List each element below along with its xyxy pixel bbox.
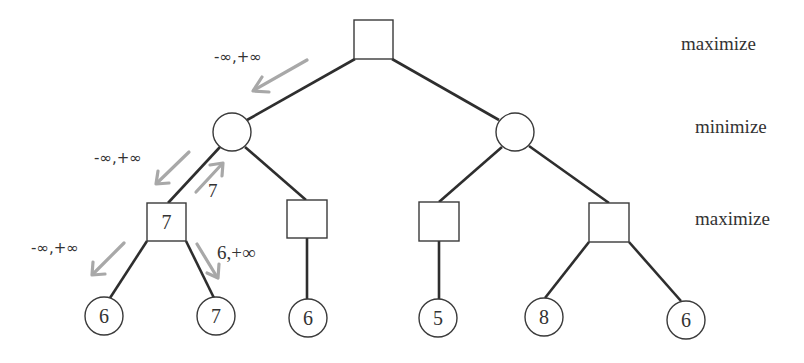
bound-label-min-left-max-1: -∞,+∞: [94, 149, 142, 167]
arrow-min-left-to-max-1-icon: [156, 152, 189, 184]
bound-label-max-1-leaf-1: -∞,+∞: [31, 239, 79, 257]
leaf-node-1-value: 6: [99, 305, 109, 327]
level-labels: maximize minimize maximize: [681, 33, 770, 229]
level-label-1: minimize: [695, 116, 767, 137]
leaf-node-5-value: 8: [539, 306, 549, 328]
bound-label-root-min-left: -∞,+∞: [214, 48, 262, 66]
tree-nodes: 7 6 7 6 5 8 6: [85, 20, 705, 339]
bound-label-max-1-leaf-2: 6,+∞: [217, 242, 256, 263]
leaf-node-6-value: 6: [681, 309, 691, 331]
minimax-tree-diagram: 7 6 7 6 5 8 6: [0, 0, 804, 363]
tree-edges: [110, 59, 681, 301]
bound-label-max-1-to-min-left: 7: [208, 180, 218, 201]
arrow-max-1-to-leaf-1-icon: [92, 243, 124, 275]
min-node-left: [213, 113, 251, 151]
level-label-2: maximize: [695, 208, 770, 229]
level-label-0: maximize: [681, 33, 756, 54]
edge-min-right-max-4: [529, 146, 609, 203]
leaf-node-3-value: 6: [303, 307, 313, 329]
edge-root-min-left: [247, 59, 355, 120]
max-node-3: [419, 202, 459, 241]
edge-min-right-max-3: [439, 147, 502, 202]
max-node-2: [287, 200, 327, 238]
edge-min-left-max-2: [245, 147, 306, 200]
leaf-node-4-value: 5: [433, 307, 443, 329]
max-node-4: [589, 203, 629, 242]
edge-root-min-right: [392, 59, 499, 120]
root-max-node: [354, 20, 393, 59]
min-node-right: [496, 113, 534, 151]
leaf-node-2-value: 7: [211, 305, 221, 327]
edge-max-4-leaf-6: [629, 242, 681, 301]
edge-max-4-leaf-5: [545, 242, 589, 298]
max-node-1-value: 7: [162, 211, 172, 233]
